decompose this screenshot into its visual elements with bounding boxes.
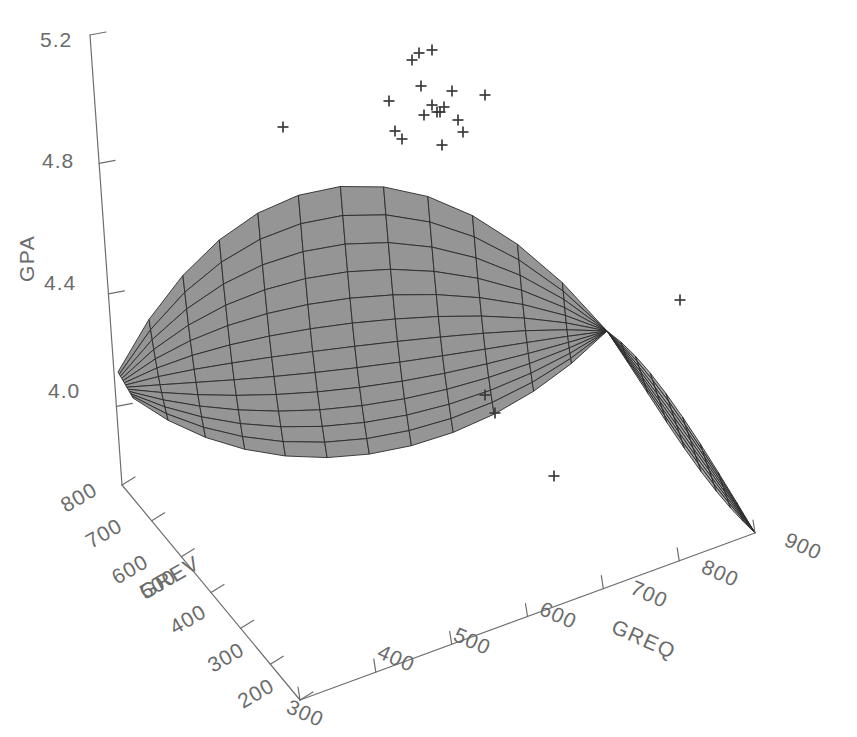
- surface-plot-figure: 5.24.84.44.08007006005004003002003004005…: [0, 0, 857, 737]
- greq-tick-label-3: 600: [536, 597, 580, 633]
- surface-facet: [196, 380, 236, 396]
- grev-tick-label-5: 300: [204, 638, 248, 677]
- scatter-marker: [549, 471, 560, 482]
- z-tick-3: [116, 403, 132, 406]
- grev-tick-label-4: 400: [166, 600, 210, 639]
- greq-axis-title: GREQ: [608, 615, 679, 664]
- z-tick-label-3: 4.0: [48, 379, 80, 402]
- grev-tick-3: [211, 585, 224, 593]
- grev-tick-label-1: 700: [82, 514, 126, 553]
- surface-facet: [350, 295, 395, 323]
- greq-tick-label-2: 500: [450, 623, 494, 659]
- surface-facet: [274, 373, 318, 395]
- scatter-marker: [458, 127, 469, 138]
- greq-tick-label-4: 700: [627, 576, 671, 612]
- z-axis-line: [90, 35, 122, 485]
- surface-facet: [343, 215, 389, 244]
- surface-facet: [279, 410, 323, 427]
- scatter-marker: [427, 45, 438, 56]
- grev-tick-0: [122, 477, 135, 485]
- greq-tick-5: [677, 548, 679, 561]
- scatter-marker: [447, 86, 458, 97]
- greq-tick-label-0: 300: [283, 695, 327, 731]
- greq-tick-label-5: 800: [698, 555, 742, 591]
- grev-tick-label-0: 800: [57, 478, 101, 517]
- grev-tick-1: [152, 513, 165, 521]
- surface-facet: [348, 269, 393, 298]
- surface-facet: [276, 392, 320, 411]
- greq-tick-4: [601, 576, 603, 589]
- scatter-marker: [278, 122, 289, 133]
- scatter-marker: [390, 126, 401, 137]
- surface-facet: [236, 395, 278, 412]
- scatter-marker: [675, 295, 686, 306]
- scatter-marker: [416, 81, 427, 92]
- grev-tick-4: [241, 620, 254, 628]
- grev-tick-5: [270, 656, 283, 664]
- z-tick-label-1: 4.8: [42, 149, 74, 172]
- z-tick-label-0: 5.2: [40, 28, 72, 51]
- plot-canvas: 5.24.84.44.08007006005004003002003004005…: [0, 0, 857, 737]
- surface-facet: [391, 269, 437, 295]
- greq-tick-label-6: 900: [781, 528, 825, 564]
- surface-facet: [393, 295, 439, 319]
- grev-tick-label-6: 200: [234, 674, 278, 713]
- z-tick-2: [108, 291, 124, 294]
- surface-facet: [234, 377, 276, 396]
- greq-tick-3: [526, 604, 528, 617]
- scatter-marker: [414, 48, 425, 59]
- scatter-marker: [407, 55, 418, 66]
- surface-facet: [340, 187, 386, 216]
- scatter-marker: [397, 134, 408, 145]
- surface-mesh: [118, 187, 755, 534]
- z-tick-0: [90, 32, 106, 35]
- scatter-marker: [427, 100, 438, 111]
- z-tick-1: [99, 160, 115, 163]
- scatter-marker: [437, 140, 448, 151]
- scatter-marker: [453, 115, 464, 126]
- surface-facet: [281, 426, 325, 442]
- scatter-marker: [480, 90, 491, 101]
- scatter-marker: [419, 110, 430, 121]
- surface-facet: [283, 442, 327, 458]
- surface-facet: [388, 243, 434, 272]
- surface-facet: [345, 243, 390, 272]
- surface-facet: [325, 439, 370, 458]
- z-tick-label-2: 4.4: [44, 271, 76, 294]
- scatter-marker: [384, 96, 395, 107]
- z-axis-title: GPA: [15, 235, 38, 282]
- surface-facet: [436, 295, 481, 317]
